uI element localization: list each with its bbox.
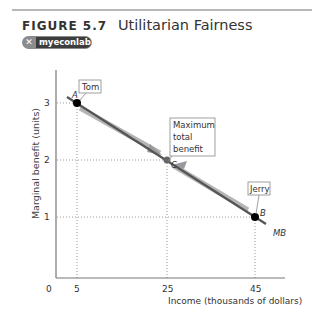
point-b-label: B: [260, 208, 266, 218]
point-a: [73, 99, 81, 107]
guide-lines: [57, 103, 255, 278]
point-c: [164, 157, 171, 164]
y-tick-1: 1: [44, 212, 50, 222]
x-tick-25: 25: [162, 284, 173, 294]
x-tick-0: 0: [46, 284, 52, 294]
jerry-label: Jerry: [249, 184, 270, 194]
mb-curve-label: MB: [273, 228, 286, 238]
point-b: [251, 213, 259, 221]
tom-label: Tom: [81, 82, 99, 92]
max-label-1: Maximum: [173, 120, 215, 130]
max-label-2: total: [173, 132, 192, 142]
max-label-3: benefit: [173, 144, 204, 154]
x-tick-45: 45: [250, 284, 261, 294]
point-a-label: A: [71, 90, 78, 100]
x-tick-5: 5: [74, 284, 80, 294]
point-c-label: C: [171, 160, 177, 170]
x-axis-label: Income (thousands of dollars): [168, 296, 302, 306]
y-tick-3: 3: [44, 98, 50, 108]
chart-canvas: Tom Maximum total benefit Jerry A C B MB…: [0, 0, 312, 314]
y-tick-2: 2: [44, 155, 50, 165]
